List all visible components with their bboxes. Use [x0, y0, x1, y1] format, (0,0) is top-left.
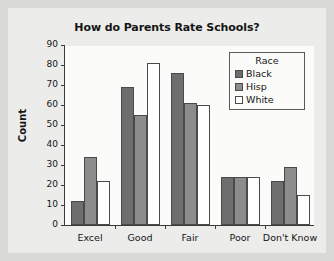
- bar[interactable]: [247, 177, 260, 225]
- x-tick-mark: [265, 225, 266, 229]
- y-tick-mark: [61, 225, 65, 226]
- legend-swatch-icon: [235, 96, 243, 104]
- bar[interactable]: [71, 201, 84, 225]
- bar[interactable]: [171, 73, 184, 225]
- x-tick-mark: [215, 225, 216, 229]
- bar[interactable]: [147, 63, 160, 225]
- x-axis-label: Fair: [182, 232, 199, 243]
- bar[interactable]: [284, 167, 297, 225]
- y-tick-label: 0: [52, 219, 58, 229]
- y-tick-mark: [61, 165, 65, 166]
- y-axis-label: Count: [17, 96, 28, 156]
- y-tick-label: 20: [47, 179, 58, 189]
- y-tick-mark: [61, 205, 65, 206]
- bar[interactable]: [234, 177, 247, 225]
- bar[interactable]: [271, 181, 284, 225]
- x-axis-label: Poor: [230, 232, 251, 243]
- y-tick-label: 90: [47, 39, 58, 49]
- legend-item-white[interactable]: White: [235, 93, 299, 106]
- bar[interactable]: [197, 105, 210, 225]
- y-tick-label: 40: [47, 139, 58, 149]
- legend-item-black[interactable]: Black: [235, 67, 299, 80]
- y-tick-mark: [61, 185, 65, 186]
- y-tick-label: 60: [47, 99, 58, 109]
- legend-item-label: White: [246, 95, 274, 105]
- x-axis-label: Good: [127, 232, 152, 243]
- y-tick-mark: [61, 45, 65, 46]
- chart-title: How do Parents Rate Schools?: [8, 21, 326, 34]
- y-tick-label: 30: [47, 159, 58, 169]
- x-axis-label: Don't Know: [263, 232, 317, 243]
- legend-swatch-icon: [235, 70, 243, 78]
- bar[interactable]: [184, 103, 197, 225]
- legend-rows: BlackHispWhite: [235, 67, 299, 106]
- x-tick-mark: [165, 225, 166, 229]
- x-tick-mark: [115, 225, 116, 229]
- bar[interactable]: [297, 195, 310, 225]
- bar-group: [121, 46, 160, 225]
- y-tick-mark: [61, 105, 65, 106]
- bar[interactable]: [121, 87, 134, 225]
- legend-title: Race: [235, 55, 299, 66]
- y-tick-label: 80: [47, 59, 58, 69]
- bar-group: [71, 46, 110, 225]
- y-tick-mark: [61, 125, 65, 126]
- legend-swatch-icon: [235, 83, 243, 91]
- bar[interactable]: [221, 177, 234, 225]
- bar-group: [171, 46, 210, 225]
- bar[interactable]: [84, 157, 97, 225]
- y-tick-label: 50: [47, 119, 58, 129]
- y-tick-mark: [61, 65, 65, 66]
- y-tick-mark: [61, 85, 65, 86]
- bar[interactable]: [97, 181, 110, 225]
- y-tick-mark: [61, 145, 65, 146]
- chart-legend: Race BlackHispWhite: [229, 52, 305, 110]
- legend-item-label: Hisp: [246, 82, 267, 92]
- y-tick-label: 10: [47, 199, 58, 209]
- y-tick-label: 70: [47, 79, 58, 89]
- chart-figure: How do Parents Rate Schools? Count 01020…: [8, 8, 326, 253]
- legend-item-hisp[interactable]: Hisp: [235, 80, 299, 93]
- legend-item-label: Black: [246, 69, 272, 79]
- x-axis-label: Excel: [77, 232, 102, 243]
- bar[interactable]: [134, 115, 147, 225]
